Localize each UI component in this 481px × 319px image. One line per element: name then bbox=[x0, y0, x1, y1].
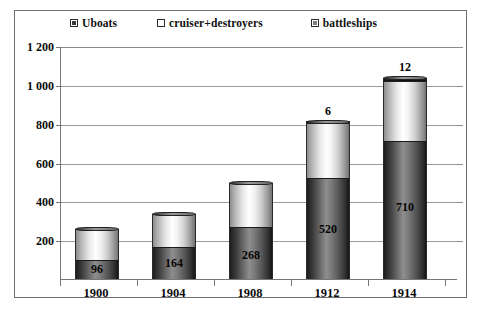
bar-segment-cruiser-1914[interactable] bbox=[383, 81, 427, 142]
y-tick-right-400 bbox=[456, 202, 463, 203]
legend-swatch-battleships-icon bbox=[311, 19, 319, 27]
legend-item-uboats[interactable]: Uboats bbox=[70, 17, 117, 29]
legend-swatch-cruiser-destroyers-icon bbox=[157, 19, 165, 27]
y-tick-right-600 bbox=[456, 164, 463, 165]
y-axis-label-600: 600 bbox=[36, 156, 54, 171]
bar-label-battleships-1908: 268 bbox=[229, 249, 273, 261]
x-axis-labels: 1900 1904 1908 1912 1914 bbox=[60, 286, 457, 306]
legend-swatch-uboats-icon bbox=[70, 19, 78, 27]
bar-segment-cruiser-1904[interactable] bbox=[152, 214, 196, 247]
legend-label-battleships: battleships bbox=[323, 17, 377, 29]
y-tick-right-1000 bbox=[456, 86, 463, 87]
bar-label-battleships-1904: 164 bbox=[152, 257, 196, 269]
y-tick-right-200 bbox=[456, 241, 463, 242]
y-axis-label-800: 800 bbox=[36, 117, 54, 132]
y-axis-label-1000: 1 000 bbox=[27, 78, 54, 93]
bar-cap-1904 bbox=[152, 212, 196, 216]
legend-label-uboats: Uboats bbox=[82, 17, 117, 29]
x-axis-label-1900: 1900 bbox=[84, 286, 109, 301]
bar-group-1904[interactable]: 164 bbox=[152, 214, 196, 279]
y-axis-labels: 1 200 1 000 800 600 400 200 bbox=[0, 47, 54, 280]
bar-cap-1908 bbox=[229, 181, 273, 185]
y-tick-right-1200 bbox=[456, 47, 463, 48]
plot-area-wrapper: 96 164 268 bbox=[60, 47, 457, 280]
y-axis-label-200: 200 bbox=[36, 234, 54, 249]
bar-group-1912[interactable]: 520 6 bbox=[306, 122, 350, 279]
bar-label-battleships-1900: 96 bbox=[75, 263, 119, 275]
bar-label-battleships-1914: 710 bbox=[383, 201, 427, 213]
y-axis-label-1200: 1 200 bbox=[27, 40, 54, 55]
bar-label-uboats-1914: 12 bbox=[383, 60, 427, 75]
bar-cap-1914 bbox=[383, 76, 427, 80]
plot-area: 96 164 268 bbox=[60, 47, 457, 280]
legend-item-cruiser-destroyers[interactable]: cruiser+destroyers bbox=[157, 17, 263, 29]
y-tick-right-800 bbox=[456, 125, 463, 126]
bar-label-uboats-1912: 6 bbox=[306, 104, 350, 119]
bar-group-1908[interactable]: 268 bbox=[229, 183, 273, 279]
bar-series-group: 96 164 268 bbox=[61, 47, 457, 279]
bar-cap-1900 bbox=[75, 227, 119, 231]
chart-root: Uboats cruiser+destroyers battleships 1 … bbox=[0, 0, 481, 319]
legend-item-battleships[interactable]: battleships bbox=[311, 17, 377, 29]
x-axis-label-1912: 1912 bbox=[315, 286, 340, 301]
chart-legend: Uboats cruiser+destroyers battleships bbox=[14, 12, 467, 34]
bar-segment-cruiser-1912[interactable] bbox=[306, 123, 350, 178]
x-axis-label-1908: 1908 bbox=[238, 286, 263, 301]
y-axis-label-400: 400 bbox=[36, 195, 54, 210]
bar-group-1900[interactable]: 96 bbox=[75, 229, 119, 279]
bar-segment-cruiser-1908[interactable] bbox=[229, 183, 273, 227]
bar-group-1914[interactable]: 710 12 bbox=[383, 78, 427, 279]
legend-label-cruiser-destroyers: cruiser+destroyers bbox=[169, 17, 263, 29]
bar-label-battleships-1912: 520 bbox=[306, 223, 350, 235]
bar-cap-1912 bbox=[306, 120, 350, 124]
x-axis-label-1914: 1914 bbox=[392, 286, 417, 301]
x-axis-label-1904: 1904 bbox=[161, 286, 186, 301]
bar-segment-cruiser-1900[interactable] bbox=[75, 229, 119, 261]
